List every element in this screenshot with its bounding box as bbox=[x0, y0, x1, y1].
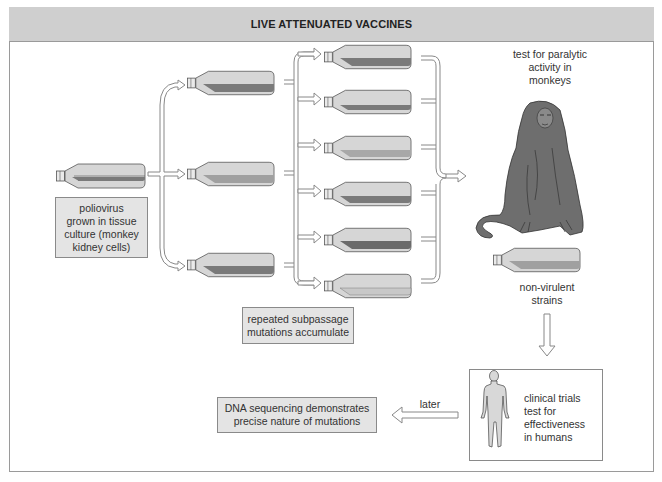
start-box-line-4: kidney cells) bbox=[64, 241, 139, 254]
start-box-line-1: poliovirus bbox=[64, 202, 139, 215]
clinical-trials-label: clinical trials test for effectiveness i… bbox=[524, 392, 600, 444]
clinical-line-3: effectiveness bbox=[524, 418, 600, 431]
clinical-line-4: in humans bbox=[524, 431, 600, 444]
nonvirulent-line-1: non-virulent bbox=[500, 281, 594, 294]
start-box: poliovirus grown in tissue culture (monk… bbox=[55, 197, 148, 258]
split-arrows-1 bbox=[148, 80, 185, 271]
gen1-flask-3 bbox=[187, 253, 274, 276]
subpassage-line-1: repeated subpassage bbox=[247, 313, 349, 326]
monkey-illustration bbox=[476, 101, 583, 238]
start-flask bbox=[57, 164, 146, 188]
gen2-flask-2 bbox=[324, 90, 411, 113]
monkey-test-line-2: activity in bbox=[495, 61, 605, 74]
gen2-flask-4 bbox=[324, 182, 411, 205]
down-arrow bbox=[539, 314, 555, 356]
split-arrows-2 bbox=[284, 52, 314, 285]
gen1-flask-1 bbox=[187, 71, 274, 94]
monkey-test-line-1: test for paralytic bbox=[495, 48, 605, 61]
nonvirulent-label: non-virulent strains bbox=[500, 281, 594, 307]
gen1-flask-2 bbox=[187, 162, 274, 185]
subpassage-box: repeated subpassage mutations accumulate bbox=[242, 307, 354, 344]
nonvirulent-flask bbox=[493, 248, 580, 271]
gen2-flask-5 bbox=[324, 228, 411, 251]
nonvirulent-line-2: strains bbox=[500, 294, 594, 307]
gen2-flask-3 bbox=[324, 136, 411, 159]
gen2-flask-6 bbox=[324, 274, 411, 297]
gen2-flask-1 bbox=[324, 45, 411, 68]
start-box-line-2: grown in tissue bbox=[64, 215, 139, 228]
dna-line-2: precise nature of mutations bbox=[225, 415, 370, 428]
dna-sequencing-box: DNA sequencing demonstrates precise natu… bbox=[217, 397, 377, 433]
start-box-line-3: culture (monkey bbox=[64, 228, 139, 241]
monkey-test-line-3: monkeys bbox=[495, 74, 605, 87]
subpassage-line-2: mutations accumulate bbox=[247, 326, 349, 339]
clinical-line-1: clinical trials bbox=[524, 392, 600, 405]
clinical-line-2: test for bbox=[524, 405, 600, 418]
merge-arrowhead bbox=[446, 170, 466, 182]
monkey-test-label: test for paralytic activity in monkeys bbox=[495, 48, 605, 87]
dna-line-1: DNA sequencing demonstrates bbox=[225, 402, 370, 415]
merge-bracket bbox=[421, 56, 446, 283]
gen2-arrowheads bbox=[298, 48, 321, 289]
later-label: later bbox=[410, 398, 450, 411]
